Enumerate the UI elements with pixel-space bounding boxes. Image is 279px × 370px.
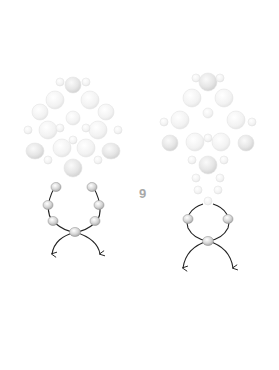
right-thread: [183, 204, 233, 268]
beadwork-diagram: [0, 0, 279, 370]
right-loop-beads: [183, 215, 233, 246]
left-figure: [24, 77, 122, 254]
right-figure: [160, 73, 256, 268]
left-bead-cluster: [24, 77, 122, 177]
right-bead-cluster: [160, 73, 256, 205]
step-number-label: 9: [139, 186, 146, 201]
left-loop-beads: [43, 183, 104, 237]
